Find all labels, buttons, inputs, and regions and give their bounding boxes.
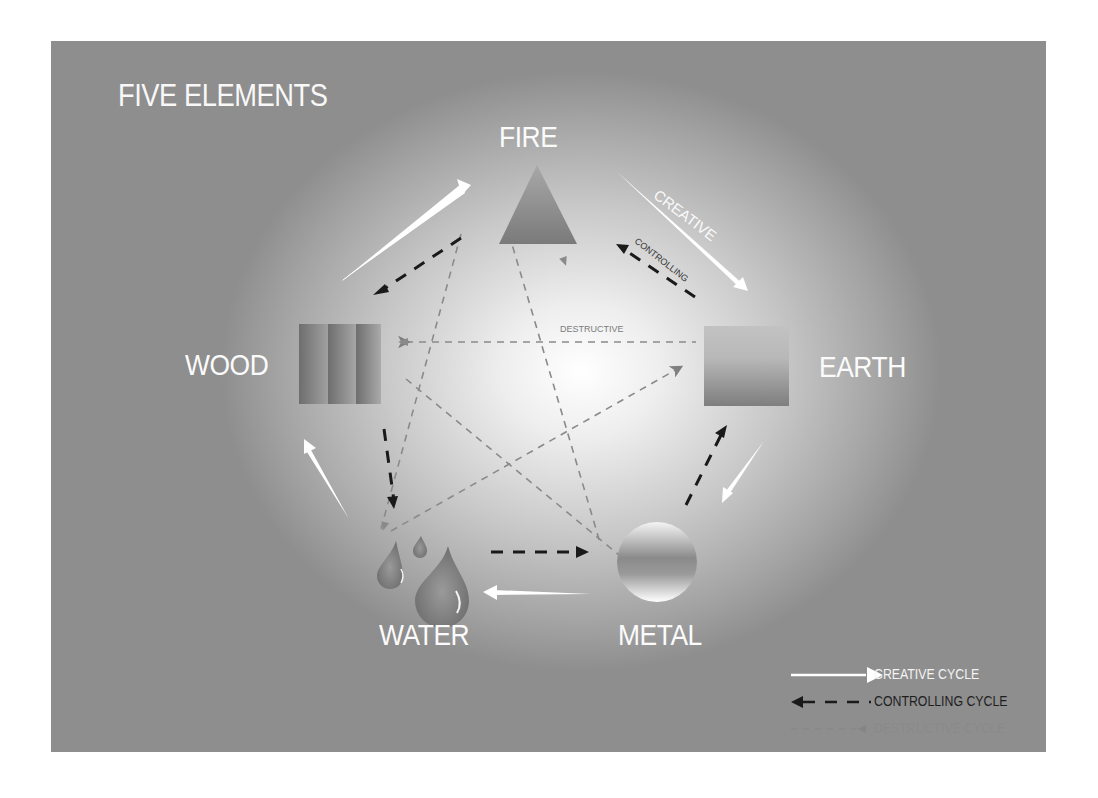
- diagram-title: FIVE ELEMENTS: [118, 78, 328, 114]
- legend-destructive: DESTRUCTIVE CYCLE: [874, 720, 1005, 736]
- label-metal: METAL: [618, 618, 702, 652]
- label-wood: WOOD: [185, 348, 268, 382]
- fire-triangle-icon: [499, 165, 577, 244]
- metal-sphere-icon: [617, 522, 697, 602]
- label-fire: FIRE: [499, 120, 557, 154]
- water-droplets-icon: [377, 536, 469, 628]
- annotation-destructive: DESTRUCTIVE: [560, 324, 624, 334]
- wood-stripes-icon: [299, 324, 381, 404]
- five-elements-diagram: FIVE ELEMENTS FIRE EARTH METAL WATER WOO…: [51, 41, 1046, 752]
- legend-creative: CREATIVE CYCLE: [874, 666, 979, 682]
- earth-square-icon: [704, 326, 789, 406]
- label-earth: EARTH: [819, 350, 906, 384]
- legend-arrows: [791, 667, 883, 733]
- legend-controlling: CONTROLLING CYCLE: [874, 693, 1007, 709]
- label-water: WATER: [379, 618, 469, 652]
- controlling-cycle-arrows: [384, 238, 721, 552]
- destructive-cycle-lines: [381, 234, 696, 565]
